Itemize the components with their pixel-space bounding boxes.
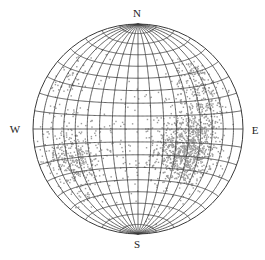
north-label: N [133, 8, 141, 19]
south-label: S [134, 239, 140, 250]
data-points [37, 48, 234, 225]
stereonet-diagram [0, 0, 265, 260]
west-label: W [10, 124, 20, 135]
east-label: E [252, 125, 259, 136]
stereonet-grid [33, 24, 243, 234]
